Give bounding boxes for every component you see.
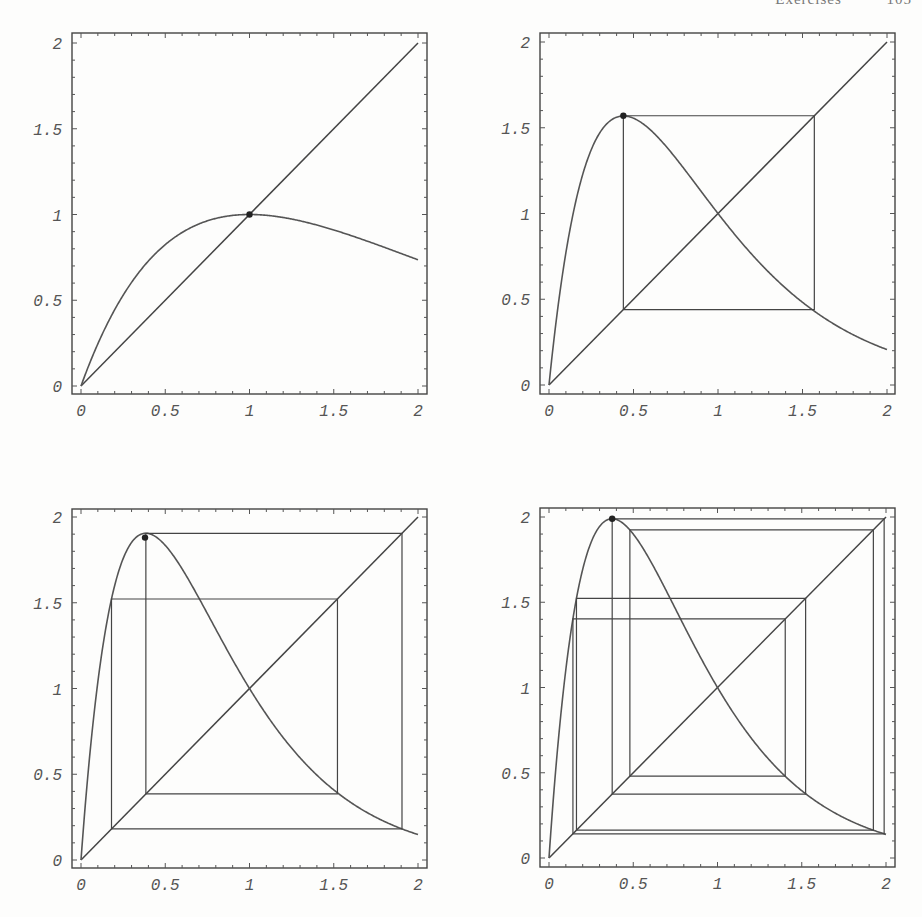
x-tick-label: 0 [544,876,554,894]
x-tick-label: 1.5 [787,876,816,894]
x-tick-label: 1 [713,876,723,894]
y-tick-label: 1.5 [501,595,530,613]
plot-bottom-right: 00.511.5200.511.52 [0,0,922,917]
y-tick-label: 1 [520,681,530,699]
x-tick-label: 2 [881,876,891,894]
marked-point [609,516,615,522]
x-tick-label: 0.5 [619,876,648,894]
y-tick-label: 0 [520,851,530,869]
y-tick-label: 2 [520,510,530,528]
y-tick-label: 0.5 [501,766,530,784]
